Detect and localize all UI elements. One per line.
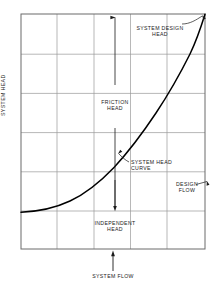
annotation-system-design-head: SYSTEM DESIGN HEAD <box>129 25 191 38</box>
system-head-curve-figure: SYSTEM HEAD SYSTEM DESIGN HEAD FRICTION … <box>0 0 220 294</box>
y-axis-title: SYSTEM HEAD <box>0 46 6 116</box>
annotation-independent-head: INDEPENDENT HEAD <box>83 220 147 233</box>
annotation-system-head-curve: SYSTEM HEAD CURVE <box>131 159 197 172</box>
plot-area-background <box>21 14 205 249</box>
diagram-canvas <box>0 0 220 294</box>
system-flow-arrowhead-up <box>111 251 115 257</box>
x-axis-title: SYSTEM FLOW <box>78 273 148 279</box>
annotation-design-flow: DESIGN FLOW <box>170 181 204 194</box>
annotation-friction-head: FRICTION HEAD <box>88 99 142 112</box>
